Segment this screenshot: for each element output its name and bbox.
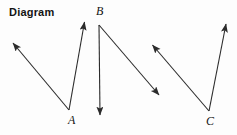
angle-B (99, 25, 159, 115)
ray-C-upper-right (209, 24, 226, 111)
angles-diagram (0, 0, 237, 135)
vertex-label-a: A (68, 114, 75, 126)
ray-C-upper-left (153, 45, 210, 111)
vertex-label-c: C (206, 115, 214, 127)
ray-B-down (99, 25, 100, 115)
angle-A (13, 22, 85, 110)
ray-B-down-right (99, 25, 159, 95)
diagram-canvas: Diagram A B C (0, 0, 237, 135)
ray-A-upper-left (13, 43, 69, 110)
ray-A-upper-right (69, 22, 85, 110)
vertex-label-b: B (96, 5, 103, 17)
angle-C (153, 24, 227, 111)
